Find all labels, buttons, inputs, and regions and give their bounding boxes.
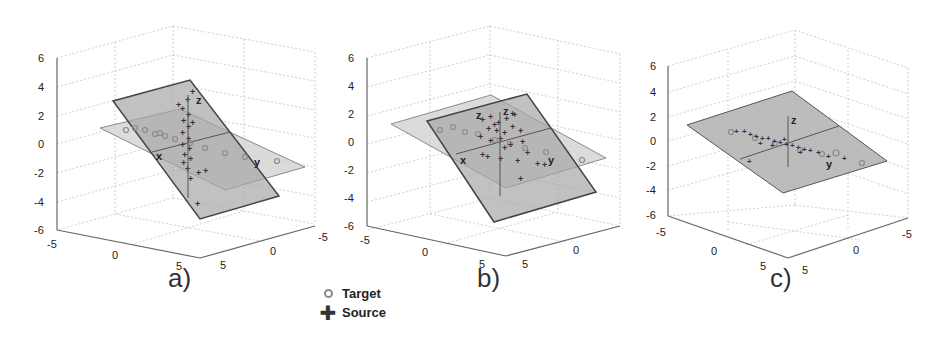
svg-text:y: y: [548, 154, 555, 166]
panel-a: 6 4 2 0 -2 -4 -6 -5 0 5 5 0 -5: [0, 0, 320, 341]
y-tick-labels: 5 0: [522, 244, 579, 270]
svg-text:+: +: [748, 130, 753, 139]
svg-text:+: +: [518, 126, 523, 136]
z-tick-labels: 6 4 2 0 -2 -4 -6: [344, 52, 354, 232]
svg-text:2: 2: [348, 108, 354, 120]
svg-text:+: +: [542, 160, 547, 170]
z-tick-labels: 6 4 2 0 -2 -4 -6: [34, 52, 44, 236]
x-tick-labels: -5 0 5: [47, 238, 182, 272]
svg-text:z: z: [476, 109, 482, 121]
svg-text:-6: -6: [344, 220, 354, 232]
svg-text:+: +: [486, 124, 491, 134]
svg-text:+: +: [790, 141, 795, 150]
svg-text:+: +: [508, 140, 513, 150]
svg-text:-2: -2: [34, 167, 44, 179]
plus-icon: ✚: [319, 306, 337, 320]
z-tick-labels: 6 4 2 0 -2 -4 -6: [646, 60, 656, 221]
svg-text:2: 2: [38, 110, 44, 122]
svg-text:6: 6: [38, 52, 44, 64]
svg-text:5: 5: [522, 258, 528, 270]
svg-text:0: 0: [573, 244, 579, 256]
svg-text:y: y: [826, 158, 833, 170]
plot-a: 6 4 2 0 -2 -4 -6 -5 0 5 5 0 -5: [0, 0, 320, 341]
svg-text:+: +: [492, 120, 497, 130]
legend-item-source: ✚ Source: [319, 303, 386, 322]
svg-text:+: +: [188, 154, 193, 164]
svg-text:+: +: [195, 199, 200, 209]
svg-text:+: +: [478, 132, 483, 142]
svg-text:+: +: [808, 146, 813, 155]
svg-text:4: 4: [348, 80, 354, 92]
svg-text:5: 5: [802, 264, 808, 276]
svg-text:+: +: [525, 148, 530, 158]
caption-a: a): [168, 263, 191, 294]
svg-text:-4: -4: [646, 184, 656, 196]
svg-text:0: 0: [270, 245, 276, 257]
svg-text:0: 0: [422, 246, 428, 258]
svg-text:+: +: [518, 174, 523, 184]
svg-text:+: +: [510, 122, 515, 132]
svg-text:5: 5: [760, 260, 766, 272]
svg-text:-4: -4: [34, 196, 44, 208]
svg-text:5: 5: [220, 259, 226, 271]
svg-text:+: +: [502, 143, 507, 153]
svg-text:0: 0: [348, 136, 354, 148]
x-tick-labels: -5 0 5: [656, 226, 766, 272]
svg-text:+: +: [188, 174, 193, 184]
svg-text:+: +: [180, 128, 185, 138]
svg-text:+: +: [498, 154, 503, 164]
svg-text:+: +: [510, 109, 515, 119]
svg-text:-5: -5: [656, 226, 666, 238]
svg-text:+: +: [186, 134, 191, 144]
svg-text:0: 0: [112, 249, 118, 261]
svg-text:+: +: [842, 154, 847, 163]
svg-text:+: +: [816, 148, 821, 157]
svg-text:+: +: [742, 127, 747, 136]
svg-text:+: +: [203, 166, 208, 176]
svg-text:+: +: [758, 139, 763, 148]
svg-text:0: 0: [711, 245, 717, 257]
svg-text:y: y: [254, 156, 261, 168]
svg-text:6: 6: [348, 52, 354, 64]
svg-text:6: 6: [650, 60, 656, 72]
svg-text:+: +: [196, 168, 201, 178]
svg-text:+: +: [734, 127, 739, 136]
svg-text:x: x: [460, 154, 467, 166]
panel-c: 6 4 2 0 -2 -4 -6 -5 0 5 5 0 -5 +++ +++: [630, 0, 950, 341]
svg-text:-5: -5: [47, 238, 57, 250]
svg-text:+: +: [176, 100, 181, 110]
svg-text:-5: -5: [902, 228, 912, 240]
legend-item-target: Target: [319, 284, 386, 303]
svg-text:0: 0: [650, 135, 656, 147]
svg-text:-2: -2: [344, 164, 354, 176]
legend-label-source: Source: [342, 305, 386, 320]
svg-text:+: +: [747, 157, 752, 166]
svg-text:+: +: [802, 145, 807, 154]
svg-text:+: +: [535, 159, 540, 169]
caption-b: b): [477, 263, 500, 294]
svg-text:x: x: [156, 150, 163, 162]
svg-text:4: 4: [38, 81, 44, 93]
caption-c: c): [770, 263, 792, 294]
legend: Target ✚ Source: [319, 284, 386, 322]
legend-label-target: Target: [342, 286, 381, 301]
svg-text:-6: -6: [34, 224, 44, 236]
svg-text:+: +: [180, 140, 185, 150]
svg-text:+: +: [770, 141, 775, 150]
svg-text:+: +: [515, 156, 520, 166]
svg-text:+: +: [798, 148, 803, 157]
svg-text:2: 2: [650, 111, 656, 123]
svg-text:4: 4: [650, 86, 656, 98]
svg-text:-2: -2: [646, 160, 656, 172]
svg-text:+: +: [190, 87, 195, 97]
svg-text:-4: -4: [344, 192, 354, 204]
svg-text:0: 0: [853, 244, 859, 256]
svg-text:+: +: [520, 137, 525, 147]
svg-text:+: +: [488, 136, 493, 146]
svg-text:+: +: [190, 118, 195, 128]
svg-text:z: z: [503, 105, 509, 117]
svg-text:-6: -6: [646, 209, 656, 221]
x-tick-labels: -5 0 5: [360, 234, 485, 270]
svg-text:z: z: [196, 94, 202, 106]
svg-text:+: +: [782, 135, 787, 144]
